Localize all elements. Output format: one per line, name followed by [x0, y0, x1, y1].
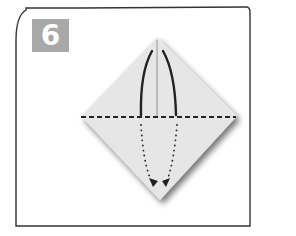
step-badge: 6 — [32, 19, 69, 52]
origami-diamond — [81, 37, 237, 200]
step-number: 6 — [41, 22, 60, 50]
